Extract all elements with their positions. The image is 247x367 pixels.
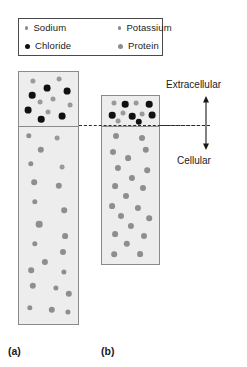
particle-sodium-extracellular bbox=[46, 110, 51, 115]
particle-protein-cellular bbox=[36, 221, 43, 228]
particle-protein-cellular bbox=[27, 305, 32, 310]
particle-chloride-extracellular bbox=[122, 101, 129, 108]
particle-protein-cellular bbox=[53, 285, 58, 290]
particle-protein-cellular bbox=[28, 161, 33, 166]
particle-protein-cellular bbox=[135, 205, 141, 211]
particle-protein-cellular bbox=[124, 241, 130, 247]
particle-protein-cellular bbox=[60, 249, 66, 255]
legend-item-protein: Protein bbox=[118, 41, 172, 51]
particle-sodium-extracellular bbox=[121, 111, 126, 116]
particle-protein-cellular bbox=[113, 133, 119, 139]
particle-sodium-extracellular bbox=[68, 103, 73, 108]
particle-protein-cellular bbox=[26, 133, 31, 138]
particle-protein-cellular bbox=[141, 233, 147, 239]
particle-protein-cellular bbox=[137, 251, 143, 257]
particle-protein-cellular bbox=[111, 251, 117, 257]
particle-sodium-extracellular bbox=[140, 112, 145, 117]
particle-sodium-extracellular bbox=[38, 100, 43, 105]
particle-protein-cellular bbox=[109, 203, 115, 209]
legend-label-potassium: Potassium bbox=[126, 23, 171, 33]
particle-protein-cellular bbox=[28, 267, 34, 273]
particle-protein-cellular bbox=[32, 241, 37, 246]
particle-chloride-extracellular bbox=[29, 92, 36, 99]
particle-sodium-extracellular bbox=[51, 97, 56, 102]
sodium-dot-icon bbox=[25, 26, 28, 29]
particle-chloride-extracellular bbox=[109, 112, 116, 119]
particle-potassium-cellular bbox=[60, 165, 65, 170]
particle-protein-cellular bbox=[139, 135, 145, 141]
caption-panel-a: (a) bbox=[8, 345, 21, 357]
particle-protein-cellular bbox=[61, 207, 67, 213]
particle-protein-cellular bbox=[112, 231, 118, 237]
label-extracellular: Extracellular bbox=[166, 79, 221, 90]
particle-protein-cellular bbox=[128, 223, 134, 229]
particle-chloride-extracellular bbox=[25, 107, 32, 114]
panel-a-membrane-divider bbox=[19, 126, 78, 127]
particle-protein-cellular bbox=[38, 147, 44, 153]
particle-sodium-extracellular bbox=[134, 101, 139, 106]
particle-chloride-extracellular bbox=[146, 101, 153, 108]
potassium-dot-icon bbox=[118, 26, 121, 29]
legend-box: Sodium Potassium Chloride Protein bbox=[18, 18, 163, 56]
particle-protein-cellular bbox=[49, 307, 55, 313]
figure-root: Sodium Potassium Chloride Protein Extrac… bbox=[0, 0, 247, 367]
particle-protein-cellular bbox=[143, 147, 149, 153]
cell-panel-b bbox=[101, 95, 160, 265]
cell-panel-a bbox=[18, 71, 79, 325]
particle-chloride-extracellular bbox=[149, 112, 156, 119]
particle-protein-cellular bbox=[30, 283, 36, 289]
particle-protein-cellular bbox=[125, 155, 131, 161]
legend-item-chloride: Chloride bbox=[25, 41, 118, 51]
particle-sodium-extracellular bbox=[30, 78, 35, 83]
particle-chloride-extracellular bbox=[59, 113, 66, 120]
particle-chloride-extracellular bbox=[38, 116, 45, 123]
particle-sodium-extracellular bbox=[112, 101, 117, 106]
particle-protein-cellular bbox=[61, 269, 66, 274]
particle-protein-cellular bbox=[65, 309, 70, 314]
panel-b-membrane-divider bbox=[102, 126, 159, 127]
particle-protein-cellular bbox=[42, 259, 48, 265]
legend-label-protein: Protein bbox=[128, 41, 159, 51]
caption-panel-b: (b) bbox=[101, 345, 114, 357]
particle-protein-cellular bbox=[146, 215, 152, 221]
legend-item-potassium: Potassium bbox=[118, 23, 172, 33]
particle-protein-cellular bbox=[32, 199, 37, 204]
particle-protein-cellular bbox=[31, 179, 37, 185]
particle-protein-cellular bbox=[144, 167, 150, 173]
particle-protein-cellular bbox=[129, 175, 135, 181]
particle-chloride-extracellular bbox=[44, 85, 51, 92]
particle-protein-cellular bbox=[110, 149, 116, 155]
particle-protein-cellular bbox=[112, 183, 118, 189]
label-cellular: Cellular bbox=[177, 155, 211, 166]
particle-protein-cellular bbox=[140, 185, 146, 191]
particle-chloride-extracellular bbox=[129, 113, 136, 120]
legend-label-chloride: Chloride bbox=[35, 41, 71, 51]
extracellular-cellular-arrow-icon bbox=[198, 96, 214, 150]
particle-protein-cellular bbox=[66, 291, 72, 297]
legend-label-sodium: Sodium bbox=[33, 23, 66, 33]
particle-chloride-extracellular bbox=[64, 88, 71, 95]
particle-protein-cellular bbox=[123, 193, 129, 199]
protein-dot-icon bbox=[118, 44, 123, 49]
particle-protein-cellular bbox=[118, 213, 124, 219]
legend-item-sodium: Sodium bbox=[25, 23, 118, 33]
particle-protein-cellular bbox=[62, 233, 68, 239]
particle-potassium-cellular bbox=[55, 136, 60, 141]
particle-protein-cellular bbox=[115, 165, 121, 171]
particle-protein-cellular bbox=[56, 183, 62, 189]
particle-sodium-extracellular bbox=[57, 77, 62, 82]
particle-sodium-extracellular bbox=[116, 119, 121, 124]
chloride-dot-icon bbox=[25, 44, 30, 49]
